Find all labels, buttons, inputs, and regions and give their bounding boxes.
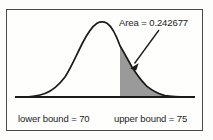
annotation-arrow-line — [135, 30, 160, 64]
shaded-area-region — [120, 46, 188, 97]
normal-distribution-figure: Area = 0.242677 lower bound = 70 upper b… — [0, 0, 213, 140]
lower-bound-label: lower bound = 70 — [18, 113, 90, 124]
upper-bound-label: upper bound = 75 — [114, 113, 187, 124]
area-annotation-label: Area = 0.242677 — [119, 17, 188, 28]
normal-curve — [22, 22, 188, 97]
